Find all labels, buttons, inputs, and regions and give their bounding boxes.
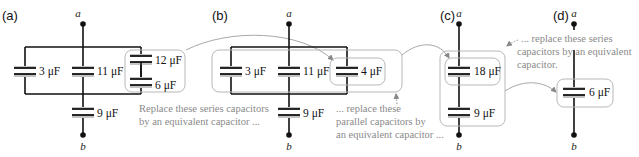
arrow-c-to-d [505,83,556,92]
panel-d: (d) a 6 μF b [553,7,613,152]
node-b-label: b [571,140,577,152]
capacitor-18uF: 18 μF [448,65,501,78]
node-a-label: a [286,7,292,19]
capacitor-reduction-diagram: (a) a 3 μF 11 μF [0,0,639,157]
panel-a-label: (a) [2,8,18,23]
note-line: parallel capacitors by [336,116,427,127]
arrow-b-to-c [402,45,449,58]
capacitor-6uF: 6 μF [563,86,610,99]
note-line: an equivalent capacitor ... [336,129,444,140]
panel-d-label: (d) [553,8,569,23]
cap-label: 6 μF [155,79,176,92]
cap-label: 9 μF [97,107,118,120]
node-b-dot [80,132,86,138]
panel-a: (a) a 3 μF 11 μF [2,7,269,152]
panel-b: (b) a 3 μF 11 μF [212,7,444,152]
node-b-dot [286,132,292,138]
capacitor-12uF: 12 μF [130,54,182,80]
cap-label: 11 μF [97,65,124,78]
panel-c-label: (c) [440,8,455,23]
capacitor-11uF: 11 μF [72,65,124,78]
node-a-label: a [571,7,577,19]
node-a-label: a [75,7,81,19]
capacitor-9uF: 9 μF [72,107,118,120]
note-line: ... replace these [336,103,401,114]
capacitor-11uF: 11 μF [278,65,330,78]
note-line: Replace these series capacitors [139,103,269,114]
cap-label: 12 μF [155,54,182,67]
capacitor-9uF: 9 μF [448,107,495,120]
cap-label: 9 μF [303,107,324,120]
capacitor-9uF: 9 μF [278,107,324,120]
node-b-label: b [456,140,462,152]
capacitor-4uF: 4 μF [336,65,382,78]
cap-label: 11 μF [303,65,330,78]
node-b-dot [571,132,577,138]
note-line: by an equivalent capacitor ... [139,116,260,127]
note-line: capacitor. [517,59,558,70]
node-a-label: a [456,7,462,19]
capacitor-3uF: 3 μF [220,65,266,78]
cap-label: 6 μF [589,86,610,99]
cap-label: 4 μF [361,65,382,78]
capacitor-6uF: 6 μF [130,77,176,92]
panel-b-label: (b) [212,8,228,23]
node-b-dot [456,132,462,138]
note-line: ... replace these series [521,33,613,44]
node-b-label: b [80,140,86,152]
cap-label: 3 μF [39,65,60,78]
cap-label: 3 μF [245,65,266,78]
capacitor-3uF: 3 μF [14,65,60,78]
cap-label: 18 μF [474,65,501,78]
cap-label: 9 μF [474,107,495,120]
node-b-label: b [286,140,292,152]
